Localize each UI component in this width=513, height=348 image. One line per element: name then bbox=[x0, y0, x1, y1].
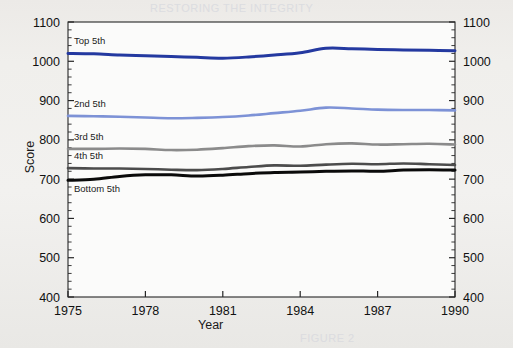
y-tick-label-left: 1000 bbox=[32, 55, 60, 69]
x-tick-label: 1975 bbox=[54, 304, 82, 318]
y-tick-label-left: 800 bbox=[39, 133, 60, 147]
series-label-bottom-5th: Bottom 5th bbox=[74, 183, 120, 194]
series-label-2nd-5th: 2nd 5th bbox=[74, 98, 106, 109]
y-tick-label-right: 600 bbox=[463, 212, 484, 226]
y-tick-label-right: 900 bbox=[463, 94, 484, 108]
figure-canvas: RESTORING THE INTEGRITY MEAN COMBINED SA… bbox=[0, 0, 513, 348]
series-label-top-5th: Top 5th bbox=[74, 35, 105, 46]
y-tick-label-left: 500 bbox=[39, 251, 60, 265]
y-tick-label-right: 1100 bbox=[463, 16, 490, 30]
y-tick-label-right: 500 bbox=[463, 251, 484, 265]
line-chart: 4004005005006006007007008008009009001000… bbox=[0, 0, 513, 348]
series-layer bbox=[68, 48, 455, 180]
y-tick-label-right: 400 bbox=[463, 291, 484, 305]
y-tick-label-left: 900 bbox=[39, 94, 60, 108]
series-line-2nd-5th bbox=[68, 108, 455, 119]
y-axis-title: Score bbox=[23, 122, 37, 192]
series-line-3rd-5th bbox=[68, 143, 455, 150]
x-tick-label: 1984 bbox=[286, 304, 314, 318]
series-line-bottom-5th bbox=[68, 170, 455, 181]
series-line-top-5th bbox=[68, 48, 455, 58]
y-tick-label-left: 1100 bbox=[33, 16, 60, 30]
x-tick-label: 1987 bbox=[364, 304, 392, 318]
series-label-4th-5th: 4th 5th bbox=[74, 150, 103, 161]
x-axis-title: Year bbox=[198, 318, 223, 332]
y-tick-label-left: 400 bbox=[39, 291, 60, 305]
x-tick-label: 1978 bbox=[131, 304, 159, 318]
series-label-3rd-5th: 3rd 5th bbox=[74, 131, 104, 142]
plot-frame bbox=[68, 22, 455, 297]
y-tick-label-left: 600 bbox=[39, 212, 60, 226]
y-tick-label-left: 700 bbox=[39, 173, 60, 187]
y-tick-label-right: 1000 bbox=[463, 55, 491, 69]
x-tick-label: 1981 bbox=[209, 304, 237, 318]
x-tick-label: 1990 bbox=[441, 304, 469, 318]
y-tick-label-right: 700 bbox=[463, 173, 484, 187]
y-tick-label-right: 800 bbox=[463, 133, 484, 147]
